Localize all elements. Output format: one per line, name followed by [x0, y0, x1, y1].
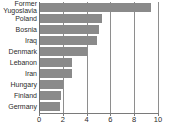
bar-row — [39, 102, 158, 111]
bar-row — [39, 91, 158, 100]
bar-series — [39, 2, 158, 113]
bar-row — [39, 3, 158, 12]
bar — [39, 14, 102, 23]
bar — [39, 47, 87, 56]
x-tick-label: 2 — [61, 115, 65, 124]
bar — [39, 91, 61, 100]
x-tick-mark — [110, 113, 111, 116]
category-label: Poland — [0, 14, 37, 23]
x-tick-label: 0 — [37, 115, 41, 124]
bar-chart: Former Yugoslavia Poland Bosnia Iraq Den… — [0, 0, 172, 133]
bar — [39, 36, 97, 45]
bar-row — [39, 58, 158, 67]
category-axis-labels: Former Yugoslavia Poland Bosnia Iraq Den… — [0, 2, 37, 113]
bar — [39, 3, 151, 12]
bar — [39, 58, 72, 67]
bar-row — [39, 36, 158, 45]
x-tick-mark — [63, 113, 64, 116]
bar — [39, 102, 60, 111]
y-axis-line — [39, 2, 40, 114]
bar-row — [39, 14, 158, 23]
gridline — [158, 2, 159, 113]
x-tick-mark — [158, 113, 159, 116]
bar-row — [39, 25, 158, 34]
plot-area — [39, 2, 158, 113]
category-label: Bosnia — [0, 25, 37, 34]
bar-row — [39, 47, 158, 56]
bar — [39, 25, 99, 34]
x-tick-mark — [134, 113, 135, 116]
x-tick-mark — [87, 113, 88, 116]
x-tick-label: 6 — [108, 115, 112, 124]
x-tick-mark — [39, 113, 40, 116]
x-axis-tick-labels: 0 2 4 6 8 10 — [0, 115, 172, 129]
category-label: Iran — [0, 69, 37, 78]
category-label: Lebanon — [0, 58, 37, 67]
x-axis-line — [39, 113, 159, 114]
x-tick-label: 10 — [154, 115, 162, 124]
category-label: Finland — [0, 91, 37, 100]
category-label: Iraq — [0, 36, 37, 45]
bar — [39, 69, 72, 78]
x-tick-label: 4 — [85, 115, 89, 124]
bar-row — [39, 69, 158, 78]
x-tick-label: 8 — [132, 115, 136, 124]
category-label: Former Yugoslavia — [0, 3, 37, 12]
category-label: Hungary — [0, 80, 37, 89]
category-label: Denmark — [0, 47, 37, 56]
category-label: Germany — [0, 102, 37, 111]
bar — [39, 80, 63, 89]
bar-row — [39, 80, 158, 89]
